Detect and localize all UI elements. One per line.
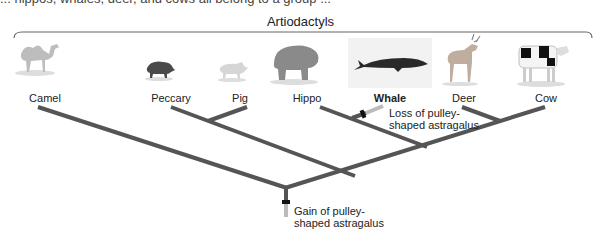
annotation-loss: Loss of pulley- shaped astragalus: [389, 107, 479, 131]
taxon-label-deer: Deer: [452, 92, 476, 104]
branch-pig: [208, 107, 247, 121]
annotation-loss-line1: Loss of pulley-: [389, 107, 479, 119]
branch-peccary-clade: [171, 107, 355, 176]
taxon-label-camel: Camel: [29, 92, 61, 104]
taxon-label-hippo: Hippo: [293, 92, 322, 104]
cow-image: [517, 46, 569, 87]
annotation-loss-line2: shaped astragalus: [389, 119, 479, 131]
pig-image: [218, 62, 248, 82]
trait-gain-marker: [282, 200, 290, 204]
annotation-gain-line1: Gain of pulley-: [294, 205, 384, 217]
hippo-image: [270, 46, 319, 86]
taxon-label-peccary: Peccary: [151, 92, 191, 104]
branch-camel: [38, 107, 287, 188]
peccary-image: [145, 62, 175, 81]
annotation-gain: Gain of pulley- shaped astragalus: [294, 205, 384, 229]
whale-image: [348, 38, 432, 88]
group-bracket: [14, 32, 592, 38]
taxon-label-pig: Pig: [232, 92, 248, 104]
deer-image: [442, 34, 480, 86]
annotation-gain-line2: shaped astragalus: [294, 217, 384, 229]
camel-image: [15, 44, 59, 76]
taxon-label-cow: Cow: [535, 92, 557, 104]
branch-whale-derived: [366, 106, 383, 113]
taxon-label-whale: Whale: [374, 92, 406, 104]
